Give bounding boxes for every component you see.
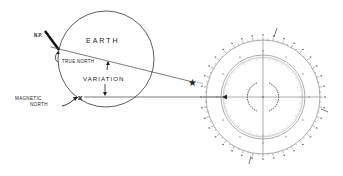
magnetic-north-pointer-icon [62,98,76,106]
variation-arrowhead-down-icon [103,92,107,96]
earth-label: EARTH [86,37,120,44]
compass-index-top [274,28,277,37]
variation-diagram: x ★ EARTH N.P. TRUE NO [0,0,343,176]
magnetic-north-label-line1: MAGNETIC [15,97,42,102]
north-pole-label: N.P. [34,34,42,39]
compass-arrow-icon [222,95,227,100]
magnetic-north-marker-icon: x [78,93,83,102]
true-north-pointer-head-icon [56,51,60,54]
diagram-canvas: x ★ [0,0,343,176]
star-pointer [197,82,203,84]
magnetic-north-label-line2: NORTH [30,103,48,108]
true-north-label: TRUE NORTH [62,60,94,65]
star-icon: ★ [188,77,197,88]
compass-center-dot [262,96,264,98]
compass-index-right [321,109,328,112]
compass-rose [200,28,328,164]
variation-label: VARIATION [83,76,124,82]
compass-index-bottom [249,156,251,164]
